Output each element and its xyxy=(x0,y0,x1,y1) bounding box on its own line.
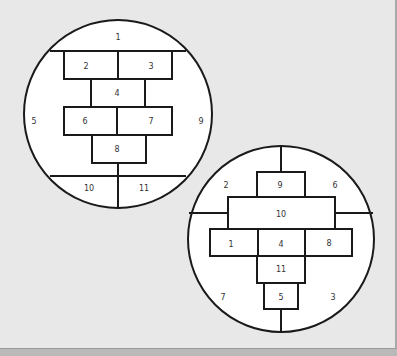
label-b-box-row2-right: 8 xyxy=(326,239,331,248)
label-b-top-left: 2 xyxy=(223,181,228,190)
label-a-bottom-left: 10 xyxy=(84,184,94,193)
circle-a-diagram xyxy=(24,20,212,208)
label-a-box-bottom: 8 xyxy=(114,145,119,154)
label-a-right: 9 xyxy=(198,117,203,126)
label-b-box-top: 9 xyxy=(277,181,282,190)
label-b-box-bottom: 5 xyxy=(278,293,283,302)
label-a-left: 5 xyxy=(31,117,36,126)
label-b-bottom-left: 7 xyxy=(220,293,225,302)
label-b-box-row2-left: 1 xyxy=(228,240,233,249)
label-b-box-wide: 10 xyxy=(276,210,286,219)
label-a-box-top-left: 2 xyxy=(83,62,88,71)
label-a-top: 1 xyxy=(115,33,120,42)
label-b-box-row2-center: 4 xyxy=(278,240,283,249)
label-b-box-row3: 11 xyxy=(276,265,286,274)
label-b-bottom-right: 3 xyxy=(330,293,335,302)
label-a-box-top-right: 3 xyxy=(148,62,153,71)
label-a-box-mid-left: 6 xyxy=(82,117,87,126)
label-a-box-middle: 4 xyxy=(114,89,119,98)
label-a-bottom-right: 11 xyxy=(139,184,149,193)
label-b-top-right: 6 xyxy=(332,181,337,190)
label-a-box-mid-right: 7 xyxy=(148,117,153,126)
